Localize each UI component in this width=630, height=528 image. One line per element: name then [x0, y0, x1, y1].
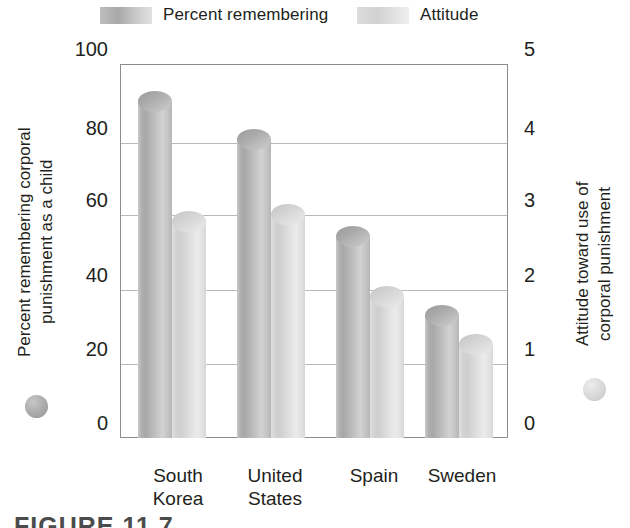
plot-frame-right: [507, 64, 508, 438]
bar-percent-sweden: [425, 315, 459, 438]
bar-attitude-united-states: [271, 214, 305, 438]
right-tick-4: 4: [524, 117, 564, 140]
category-line-2: States: [225, 487, 325, 510]
right-axis-title: Attitude toward use of corporal punishme…: [572, 156, 616, 372]
gridline-100: [120, 64, 508, 65]
bar-body: [336, 236, 370, 438]
category-line-1: South: [128, 464, 228, 487]
right-tick-5: 5: [524, 38, 564, 61]
legend-swatch-icon-percent-remembering: [100, 7, 152, 24]
category-label-united-states: United States: [225, 464, 325, 510]
plot-frame-left: [120, 64, 121, 438]
bar-body: [172, 221, 206, 438]
bar-cap-ellipse: [271, 204, 305, 225]
bar-body: [459, 344, 493, 438]
left-tick-60: 60: [56, 189, 108, 212]
bar-cap-ellipse: [336, 226, 370, 247]
chart-legend: Percent remembering Attitude: [0, 2, 630, 32]
left-axis-marker-dot-icon: [25, 395, 48, 418]
right-axis-marker-dot-icon: [583, 378, 606, 401]
bar-body: [370, 296, 404, 438]
right-tick-0: 0: [524, 412, 564, 435]
legend-item-percent-remembering: Percent remembering: [100, 2, 328, 28]
category-line-1: Sweden: [412, 464, 512, 487]
category-line-2: Korea: [128, 487, 228, 510]
bar-attitude-spain: [370, 296, 404, 438]
bar-cap-ellipse: [172, 211, 206, 232]
legend-item-attitude: Attitude: [357, 2, 478, 28]
bar-cap-ellipse: [237, 129, 271, 150]
category-line-1: United: [225, 464, 325, 487]
figure-caption: FIGURE 11.7: [14, 512, 174, 528]
left-axis-title: Percent remembering corporal punishment …: [14, 98, 58, 386]
category-label-spain: Spain: [324, 464, 424, 487]
bar-cap-ellipse: [425, 305, 459, 326]
left-tick-80: 80: [56, 117, 108, 140]
bar-body: [237, 139, 271, 438]
gridline-80: [120, 143, 508, 144]
bar-cap-ellipse: [370, 286, 404, 307]
legend-label-attitude: Attitude: [420, 5, 478, 25]
bar-attitude-south-korea: [172, 221, 206, 438]
left-tick-40: 40: [56, 264, 108, 287]
left-tick-20: 20: [56, 338, 108, 361]
bar-percent-spain: [336, 236, 370, 438]
bar-body: [425, 315, 459, 438]
right-tick-3: 3: [524, 189, 564, 212]
legend-swatch-icon-attitude: [357, 7, 409, 24]
bar-body: [271, 214, 305, 438]
left-tick-0: 0: [56, 412, 108, 435]
bar-attitude-sweden: [459, 344, 493, 438]
right-tick-2: 2: [524, 264, 564, 287]
category-line-1: Spain: [324, 464, 424, 487]
bar-body: [138, 101, 172, 438]
category-label-sweden: Sweden: [412, 464, 512, 487]
left-tick-100: 100: [56, 38, 108, 61]
bar-cap-ellipse: [138, 91, 172, 112]
bar-percent-united-states: [237, 139, 271, 438]
bar-cap-ellipse: [459, 334, 493, 355]
bar-percent-south-korea: [138, 101, 172, 438]
chart-plot-area: [120, 64, 508, 438]
legend-label-percent-remembering: Percent remembering: [163, 5, 328, 25]
right-tick-1: 1: [524, 338, 564, 361]
category-label-south-korea: South Korea: [128, 464, 228, 510]
